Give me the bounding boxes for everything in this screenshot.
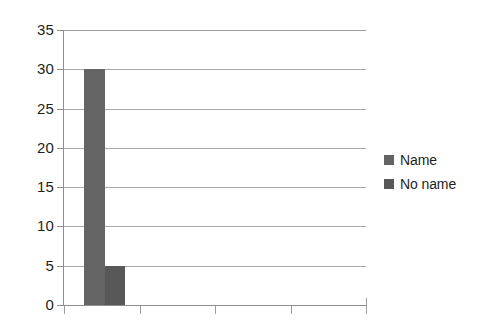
y-axis-line [63, 30, 64, 306]
legend-item[interactable]: Name [384, 148, 484, 172]
chart-legend: NameNo name [384, 148, 484, 196]
gridline [64, 109, 366, 110]
gridline [64, 148, 366, 149]
y-axis-tick-labels: 05101520253035 [0, 0, 54, 336]
y-axis-tick [57, 109, 64, 110]
y-axis-tick [57, 305, 64, 306]
plot-area [64, 30, 366, 305]
legend-label: No name [400, 176, 456, 192]
x-axis-tick [291, 306, 292, 314]
y-axis-tick [57, 148, 64, 149]
y-axis-tick-label: 25 [4, 101, 54, 116]
y-axis-tick-label: 30 [4, 61, 54, 76]
y-axis-tick-label: 5 [4, 258, 54, 273]
y-axis-tick [57, 187, 64, 188]
y-axis-tick [57, 226, 64, 227]
gridline [64, 226, 366, 227]
x-axis-tick [366, 306, 367, 314]
x-axis-tick [215, 306, 216, 314]
legend-label: Name [400, 152, 437, 168]
bar-chart-figure: 05101520253035 NameNo name [0, 0, 487, 336]
bar [84, 69, 104, 305]
gridline [64, 187, 366, 188]
legend-swatch-icon [384, 155, 394, 165]
y-axis-tick [57, 30, 64, 31]
legend-swatch-icon [384, 179, 394, 189]
legend-item[interactable]: No name [384, 172, 484, 196]
y-axis-tick-label: 20 [4, 140, 54, 155]
gridline [64, 30, 366, 31]
bar [105, 266, 125, 305]
y-axis-tick [57, 69, 64, 70]
gridline [64, 69, 366, 70]
y-axis-tick-label: 35 [4, 22, 54, 37]
y-axis-tick [57, 266, 64, 267]
x-axis-tick [140, 306, 141, 314]
x-axis-tick [64, 306, 65, 314]
y-axis-tick-label: 10 [4, 218, 54, 233]
y-axis-tick-label: 0 [4, 297, 54, 312]
x-axis-right-cap [366, 298, 367, 306]
y-axis-tick-label: 15 [4, 179, 54, 194]
